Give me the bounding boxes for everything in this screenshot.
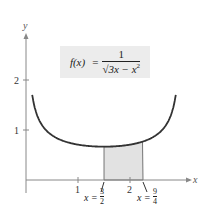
annotation-x-3-2: x = 3 2	[84, 188, 104, 206]
y-tick-label-2: 2	[14, 75, 19, 86]
formula-fraction: 1 √3x − x2	[102, 49, 140, 75]
annotation-numerator: 9	[153, 188, 157, 196]
annotation-equals: =	[91, 192, 97, 203]
y-axis-label: y	[22, 20, 28, 31]
formula-denominator: √3x − x2	[102, 61, 140, 75]
annotation-x-9-4: x = 9 4	[137, 188, 157, 206]
formula-lhs: f(x)	[70, 56, 85, 68]
annotation-var: x	[84, 192, 88, 203]
formula-equals: =	[92, 56, 98, 68]
annotation-equals: =	[144, 192, 150, 203]
annotation-denominator: 4	[153, 196, 157, 206]
annotation-denominator: 2	[100, 196, 104, 206]
y-axis-arrow-icon	[24, 33, 29, 39]
formula-denominator-expr: 3x − x	[108, 63, 136, 75]
x-tick-label-2: 2	[127, 184, 132, 195]
formula-numerator: 1	[118, 49, 124, 61]
annotation-fraction: 9 4	[153, 188, 157, 206]
annotation-fraction: 3 2	[100, 188, 104, 206]
graph-canvas: 1 2 1 2 x y	[0, 0, 206, 208]
formula-label: f(x) = 1 √3x − x2	[60, 46, 150, 78]
y-tick-label-1: 1	[14, 125, 19, 136]
x-tick-label-1: 1	[75, 184, 80, 195]
x-axis-arrow-icon	[186, 178, 192, 183]
annotation-var: x	[137, 192, 141, 203]
x-axis-label: x	[192, 174, 198, 185]
formula-exponent: 2	[137, 62, 141, 70]
function-curve	[32, 95, 176, 147]
annotation-numerator: 3	[100, 188, 104, 196]
